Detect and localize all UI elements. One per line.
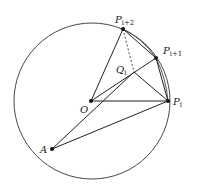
label-p-i: Pi [172, 96, 183, 109]
point-a [50, 147, 54, 151]
segment-pi1-pi [156, 58, 168, 101]
segment-a-qi [52, 72, 134, 149]
diagram-canvas: Pi+2 Pi+1 Pi Qi O A [0, 0, 197, 192]
segment-a-pi [52, 101, 168, 149]
label-q-i: Qi [116, 64, 127, 77]
segment-pi2-qi-dashed [123, 29, 134, 72]
point-p-i2 [121, 27, 125, 31]
label-p-i1: Pi+1 [162, 45, 182, 58]
label-p-i2: Pi+2 [114, 14, 134, 27]
label-o: O [80, 104, 88, 115]
segment-pi2-pi1 [123, 29, 156, 58]
point-p-i [166, 99, 170, 103]
point-p-i1 [154, 56, 158, 60]
geometry-diagram: Pi+2 Pi+1 Pi Qi O A [0, 0, 197, 192]
label-a: A [39, 144, 47, 155]
point-o [89, 99, 93, 103]
